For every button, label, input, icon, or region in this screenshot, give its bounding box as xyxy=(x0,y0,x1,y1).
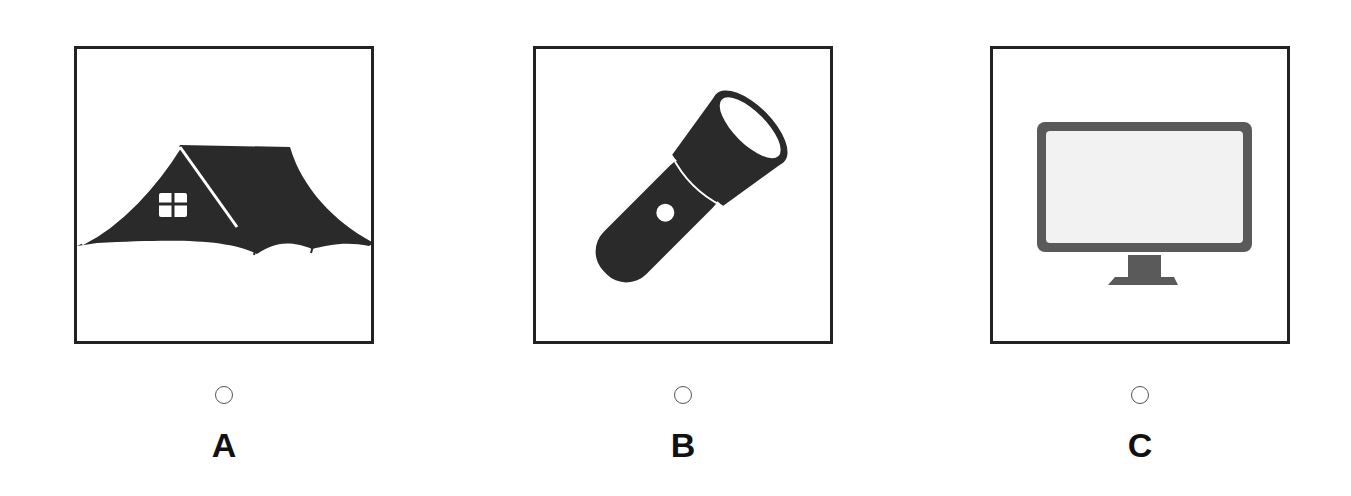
option-b[interactable]: B xyxy=(533,0,833,496)
option-b-radio[interactable] xyxy=(674,386,692,404)
option-a[interactable]: A xyxy=(74,0,374,496)
option-c-image[interactable] xyxy=(990,46,1290,344)
option-a-label: A xyxy=(74,426,374,465)
tent-icon xyxy=(77,49,371,341)
option-c-label: C xyxy=(990,426,1290,465)
option-b-label: B xyxy=(533,426,833,465)
option-a-radio[interactable] xyxy=(215,386,233,404)
option-c-radio[interactable] xyxy=(1131,386,1149,404)
option-a-image[interactable] xyxy=(74,46,374,344)
option-b-image[interactable] xyxy=(533,46,833,344)
flashlight-icon xyxy=(536,49,830,341)
monitor-icon xyxy=(993,49,1287,341)
option-c[interactable]: C xyxy=(990,0,1290,496)
